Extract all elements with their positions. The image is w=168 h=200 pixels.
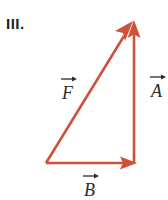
vector-b-label: B [84, 181, 95, 199]
vector-b-accent-arrow-icon [83, 171, 100, 180]
vector-f-arrow [46, 21, 133, 163]
vector-triangle-drawing [0, 0, 168, 200]
vector-b-arrow [46, 157, 137, 170]
vector-f-shaft [46, 36, 124, 163]
vector-f-label: F [62, 84, 73, 102]
vector-a-arrow [128, 20, 141, 164]
vector-a-accent-arrow-icon [150, 72, 167, 81]
vector-diagram-figure: III. F A B [0, 0, 168, 200]
vector-a-label: A [151, 82, 162, 100]
vector-f-accent-arrow-icon [61, 74, 78, 83]
